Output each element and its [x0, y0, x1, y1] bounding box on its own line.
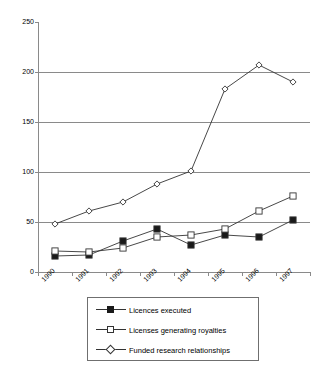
legend-marker-filled-square-icon	[96, 305, 126, 315]
data-point	[52, 221, 58, 227]
legend-label: Licences executed	[126, 306, 191, 315]
data-point	[154, 234, 160, 240]
legend-marker-open-diamond-icon	[96, 345, 126, 355]
legend-item: Funded research relationships	[96, 345, 230, 355]
chart-legend: Licences executed Licenses generating ro…	[87, 297, 259, 361]
legend-label: Funded research relationships	[126, 346, 230, 355]
data-point	[154, 226, 160, 232]
data-point	[52, 248, 58, 254]
data-point	[188, 242, 194, 248]
data-point	[222, 232, 228, 238]
data-point	[154, 181, 160, 187]
data-point	[222, 86, 228, 92]
legend-label: Licenses generating royalties	[126, 326, 226, 335]
data-point	[120, 199, 126, 205]
data-point	[86, 249, 92, 255]
legend-item: Licenses generating royalties	[96, 325, 226, 335]
chart-figure: 050100150200250 199019911992199319941995…	[0, 0, 327, 377]
data-point	[120, 245, 126, 251]
data-point	[188, 232, 194, 238]
data-point	[290, 79, 296, 85]
data-point	[256, 234, 262, 240]
series-line	[55, 65, 293, 224]
legend-item: Licences executed	[96, 305, 191, 315]
data-point	[120, 238, 126, 244]
series-3	[52, 62, 296, 227]
data-point	[290, 217, 296, 223]
series-2	[52, 193, 296, 255]
data-point	[256, 62, 262, 68]
series-line	[55, 196, 293, 252]
legend-marker-open-square-icon	[96, 325, 126, 335]
data-point	[256, 208, 262, 214]
data-point	[188, 168, 194, 174]
data-point	[222, 226, 228, 232]
data-point	[290, 193, 296, 199]
data-point	[86, 208, 92, 214]
